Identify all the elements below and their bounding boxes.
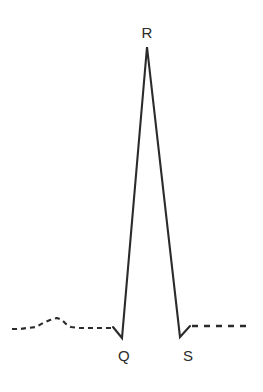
ecg-figure: R Q S [0,0,263,392]
qrs-solid-trace [113,47,190,338]
r-wave-label: R [141,25,152,40]
s-wave-label: S [183,348,193,363]
ecg-waveform-svg [0,0,263,392]
q-wave-label: Q [118,348,130,363]
p-wave-dashed-trace [12,318,111,329]
